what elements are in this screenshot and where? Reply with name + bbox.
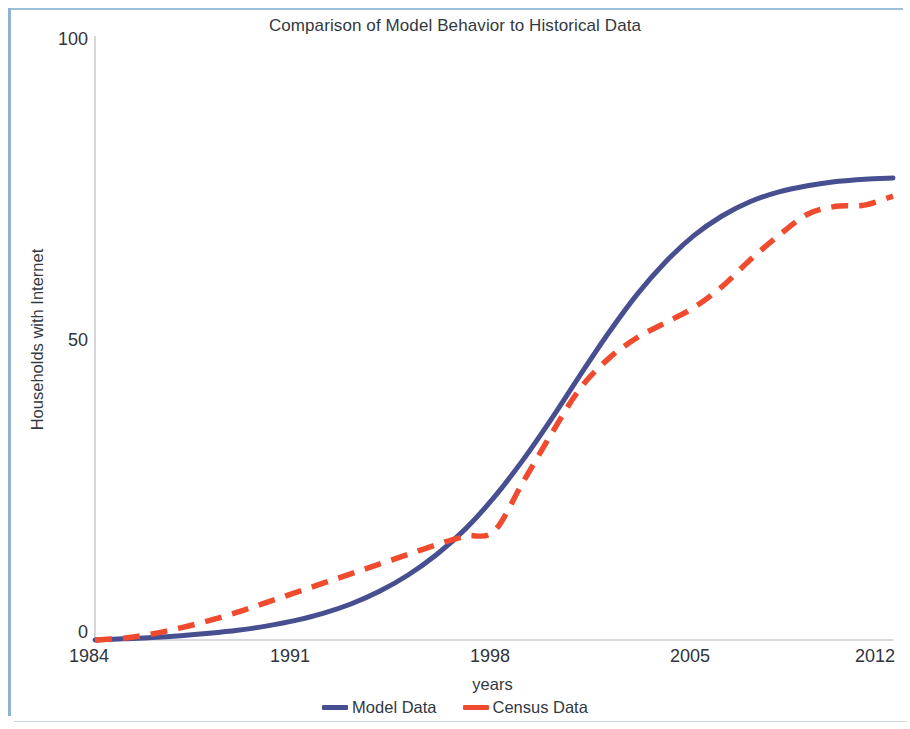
axis-lines <box>95 36 893 640</box>
legend-item-census-data[interactable]: Census Data <box>463 698 588 717</box>
series-group <box>95 178 893 640</box>
legend-swatch-model-data <box>322 705 348 710</box>
chart-legend: Model Data Census Data <box>0 698 910 717</box>
plot-area <box>0 0 910 729</box>
chart-page: Comparison of Model Behavior to Historic… <box>0 0 910 729</box>
series-line-census-data <box>95 196 893 640</box>
legend-item-model-data[interactable]: Model Data <box>322 698 436 717</box>
series-line-model-data <box>95 178 893 640</box>
legend-label-model-data: Model Data <box>352 698 436 717</box>
legend-label-census-data: Census Data <box>493 698 588 717</box>
legend-swatch-census-data <box>463 705 489 710</box>
